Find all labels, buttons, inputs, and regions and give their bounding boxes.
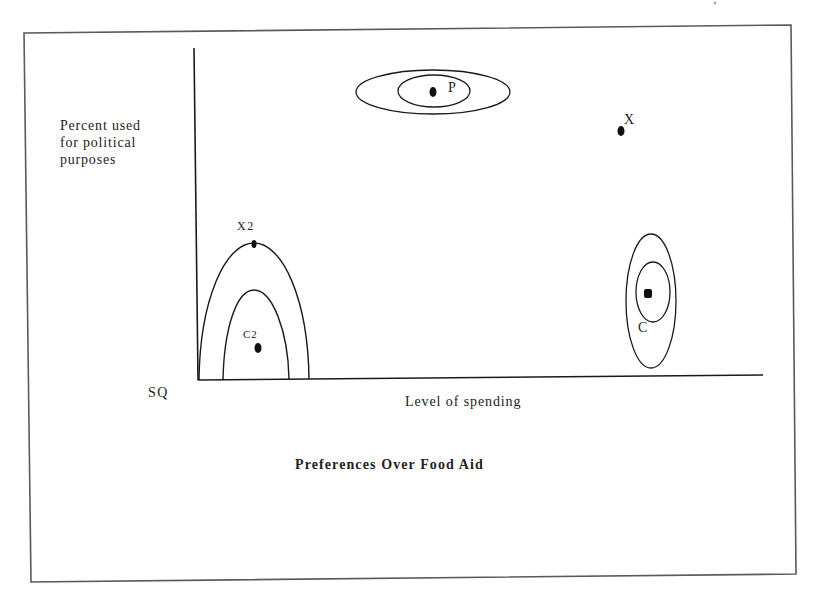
y-axis bbox=[194, 48, 198, 380]
point-label-c2: C2 bbox=[243, 328, 258, 340]
point-label-c: C bbox=[638, 320, 648, 336]
point-label-p: P bbox=[448, 80, 456, 96]
point-label-x: X bbox=[624, 112, 635, 128]
c-ideal-point bbox=[644, 289, 652, 298]
figure-canvas bbox=[0, 0, 818, 606]
c2-outer-arch bbox=[199, 243, 309, 380]
x-axis-label: Level of spending bbox=[405, 394, 521, 410]
point-label-x2: X2 bbox=[237, 219, 255, 234]
y-axis-label-line-2: for political bbox=[60, 134, 141, 151]
figure-frame bbox=[24, 25, 796, 582]
y-axis-label-line-1: Percent used bbox=[60, 117, 141, 134]
c-outer-ellipse bbox=[626, 234, 676, 368]
x2-point bbox=[252, 240, 257, 248]
c-inner-ellipse bbox=[636, 262, 670, 322]
figure-title: Preferences Over Food Aid bbox=[295, 457, 484, 473]
x-axis bbox=[198, 375, 763, 380]
origin-label: SQ bbox=[148, 385, 169, 401]
p-ideal-point bbox=[430, 87, 437, 97]
scan-speck bbox=[714, 2, 716, 4]
y-axis-label: Percent used for political purposes bbox=[60, 117, 141, 168]
y-axis-label-line-3: purposes bbox=[60, 151, 141, 168]
c2-ideal-point bbox=[255, 343, 262, 353]
